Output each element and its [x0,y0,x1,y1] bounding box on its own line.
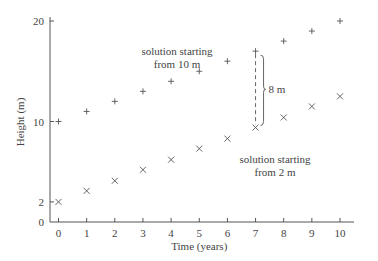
y-tick-label: 2 [39,196,45,208]
plus-marker [140,88,146,94]
plus-marker [168,78,174,84]
annotation-lower-line2: from 2 m [255,166,296,178]
cross-marker [224,136,230,142]
x-tick-label: 0 [56,227,62,239]
x-tick-label: 8 [281,227,287,239]
x-tick-label: 6 [225,227,231,239]
plus-marker [112,98,118,104]
brace [261,55,266,125]
plus-marker [281,38,287,44]
x-tick-label: 2 [112,227,118,239]
annotation-upper-line1: solution starting [141,45,213,57]
plus-marker [309,28,315,34]
cross-marker [309,103,315,109]
plus-marker [84,108,90,114]
cross-marker [168,157,174,163]
cross-marker [253,125,259,131]
x-tick-label: 5 [197,227,203,239]
chart: 012345678910021020Time (years)Height (m)… [0,0,378,261]
x-tick-label: 10 [335,227,347,239]
difference-label: 8 m [269,83,286,95]
cross-marker [337,93,343,99]
y-tick-label: 10 [33,116,45,128]
annotation-upper-line2: from 10 m [154,58,201,70]
cross-marker [56,199,62,205]
cross-marker [84,188,90,194]
x-axis-label: Time (years) [171,240,227,253]
y-tick-label: 0 [39,216,45,228]
plus-marker [337,18,343,24]
x-tick-label: 7 [253,227,259,239]
x-tick-label: 4 [168,227,174,239]
annotation-lower-line1: solution starting [239,153,311,165]
cross-marker [140,167,146,173]
cross-marker [196,146,202,152]
y-tick-label: 20 [33,15,45,27]
y-axis-label: Height (m) [14,97,27,146]
plus-marker [253,48,259,54]
x-tick-label: 3 [140,227,146,239]
x-tick-label: 9 [309,227,315,239]
cross-marker [112,178,118,184]
x-tick-label: 1 [84,227,90,239]
cross-marker [281,114,287,120]
plus-marker [56,119,62,125]
plus-marker [224,58,230,64]
